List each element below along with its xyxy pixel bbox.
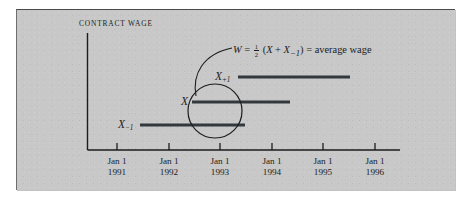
formula-equals-2: = [306, 44, 312, 55]
average-wage-highlight-circle [188, 84, 242, 138]
x-tick-label-1995-line1: Jan 1 [300, 156, 346, 167]
x-tick-label-1993: Jan 1 1993 [197, 156, 243, 177]
x-tick-label-1996: Jan 1 1996 [352, 156, 398, 177]
series-label-x-plus-1-base: X [215, 70, 222, 82]
x-tick-label-1995: Jan 1 1995 [300, 156, 346, 177]
formula-rhs-text: average wage [315, 44, 372, 55]
series-label-x-minus-1: X−1 [118, 119, 133, 132]
x-tick-label-1992-line2: 1992 [146, 167, 192, 178]
x-tick-label-1991-line2: 1991 [94, 167, 140, 178]
x-tick-label-1991: Jan 1 1991 [94, 156, 140, 177]
formula-lhs: W [233, 44, 242, 55]
x-tick-label-1992: Jan 1 1992 [146, 156, 192, 177]
x-tick-label-1994: Jan 1 1994 [249, 156, 295, 177]
x-tick-label-1994-line2: 1994 [249, 167, 295, 178]
series-label-x-minus-1-subscript: −1 [125, 124, 133, 132]
x-axis-ticks [117, 143, 375, 150]
formula-denominator: 2 [254, 51, 259, 58]
formula-one-half: 12 [254, 43, 259, 58]
formula-plus: + [275, 44, 281, 55]
formula-term-x-minus-1: X−1 [284, 44, 301, 55]
x-tick-label-1994-line1: Jan 1 [249, 156, 295, 167]
x-tick-label-1995-line2: 1995 [300, 167, 346, 178]
series-label-x-plus-1: X+1 [215, 71, 230, 84]
formula-term-x: X [266, 44, 272, 55]
x-tick-label-1993-line2: 1993 [197, 167, 243, 178]
formula-close-paren: ) [300, 44, 303, 55]
series-label-x-plus-1-subscript: +1 [222, 76, 230, 84]
x-tick-label-1992-line1: Jan 1 [146, 156, 192, 167]
figure-screenshot: CONTRACT WAGE W = 12 (X + X−1) = average… [0, 0, 470, 199]
x-tick-label-1991-line1: Jan 1 [94, 156, 140, 167]
series-label-x-base: X [181, 95, 188, 107]
formula-equals-1: = [244, 44, 250, 55]
formula-numerator: 1 [254, 43, 259, 51]
average-wage-formula: W = 12 (X + X−1) = average wage [233, 43, 372, 58]
x-tick-label-1993-line1: Jan 1 [197, 156, 243, 167]
x-tick-label-1996-line2: 1996 [352, 167, 398, 178]
x-tick-label-1996-line1: Jan 1 [352, 156, 398, 167]
y-axis-title: CONTRACT WAGE [79, 20, 153, 27]
series-label-x-minus-1-base: X [118, 118, 125, 130]
formula-term2-subscript: −1 [290, 48, 300, 58]
series-label-x: X [181, 96, 188, 109]
